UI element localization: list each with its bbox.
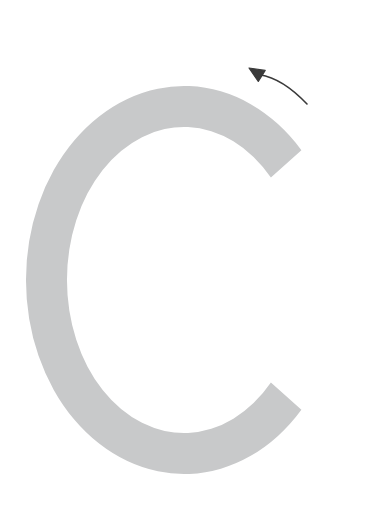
figure-canvas <box>0 0 367 508</box>
figure-svg <box>0 0 367 508</box>
